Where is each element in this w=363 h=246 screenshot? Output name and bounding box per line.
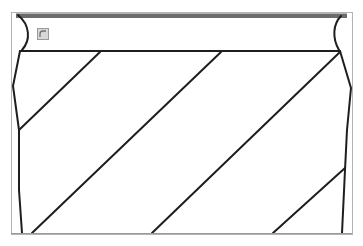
- hatch-line: [19, 52, 100, 130]
- right-edge: [340, 51, 351, 233]
- top-bar: [16, 14, 347, 19]
- resize-handle-icon[interactable]: [38, 29, 49, 40]
- right-bracket-curve: [334, 16, 341, 50]
- drawing-canvas: [0, 0, 363, 246]
- hatch-line: [273, 168, 345, 233]
- canvas-frame: [12, 13, 353, 235]
- left-edge: [13, 51, 22, 233]
- hatch-line: [32, 52, 221, 233]
- left-bracket-curve: [18, 15, 28, 50]
- hatch-line: [152, 52, 340, 233]
